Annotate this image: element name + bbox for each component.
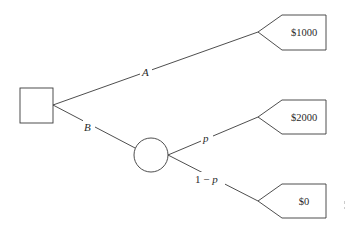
payoff-tag-0 <box>258 184 326 218</box>
decision-node-square <box>20 88 53 123</box>
branch-p-label: p <box>202 132 209 144</box>
payoff-1000-text: $1000 <box>291 27 317 38</box>
branch-b-label: B <box>84 121 91 133</box>
branch-1-minus-p-label: 1 − p <box>195 173 218 185</box>
payoff-0-text: $0 <box>299 196 310 207</box>
branch-a-line <box>53 32 258 105</box>
branch-a-label: A <box>141 66 149 78</box>
edge-artifact <box>344 207 345 209</box>
decision-tree-diagram: A B p 1 − p $1000 $2000 $0 <box>0 0 348 238</box>
chance-node-circle <box>134 138 168 172</box>
edge-artifact <box>344 201 345 204</box>
payoff-2000-text: $2000 <box>291 112 317 123</box>
